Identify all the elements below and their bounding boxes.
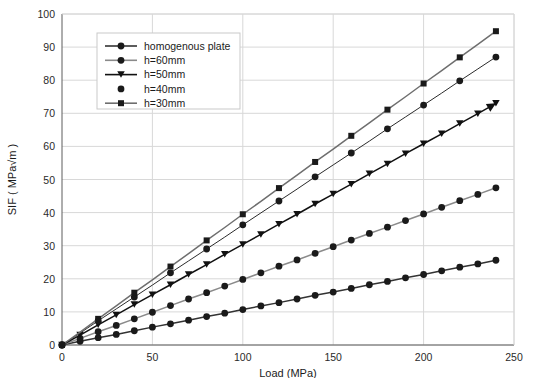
marker-circle [203,289,210,296]
marker-circle [149,324,156,331]
legend-label: h=50mm [144,68,185,80]
marker-circle [420,102,427,109]
marker-circle [131,315,138,322]
marker-square [95,316,101,322]
marker-square [131,290,137,296]
marker-circle [366,230,373,237]
marker-square [421,81,427,87]
marker-circle [221,310,228,317]
legend-label: h=40mm [144,83,185,95]
y-tick-label: 0 [49,339,55,351]
y-tick-label: 40 [43,207,55,219]
y-tick-label: 70 [43,107,55,119]
marker-circle [203,313,210,320]
x-tick-label: 250 [505,351,523,363]
marker-square [348,133,354,139]
marker-square [493,28,499,34]
marker-circle [438,267,445,274]
marker-circle [113,331,120,338]
marker-circle [456,77,463,84]
marker-square [59,342,65,348]
x-axis-title: Load (MPa) [259,367,316,378]
x-tick-label: 150 [324,351,342,363]
x-tick-label: 50 [147,351,159,363]
sif-vs-load-line-chart: 0102030405060708090100050100150200250 Lo… [0,0,538,378]
marker-circle [118,86,125,93]
marker-circle [456,197,463,204]
x-tick-label: 100 [234,351,252,363]
marker-circle [276,263,283,270]
marker-circle [239,221,246,228]
legend: homogenous plateh=60mmh=50mmh=40mmh=30mm [97,33,240,109]
marker-circle [257,303,264,310]
marker-circle [348,237,355,244]
marker-circle [366,281,373,288]
marker-circle [149,309,156,316]
y-tick-label: 10 [43,306,55,318]
marker-circle [167,320,174,327]
marker-circle [221,283,228,290]
marker-circle [348,285,355,292]
marker-circle [239,276,246,283]
marker-circle [312,292,319,299]
marker-circle [167,302,174,309]
marker-circle [95,328,102,335]
marker-square [312,159,318,165]
marker-square [384,107,390,113]
marker-circle [384,278,391,285]
marker-square [457,54,463,60]
marker-circle [456,264,463,271]
marker-square [167,264,173,270]
marker-circle [493,184,500,191]
marker-circle [239,306,246,313]
marker-circle [348,150,355,157]
marker-circle [493,257,500,264]
marker-circle [118,43,125,50]
marker-circle [276,299,283,306]
marker-circle [384,125,391,132]
series-h-50mm [58,100,499,348]
marker-circle [167,269,174,276]
marker-circle [113,322,120,329]
marker-circle [402,274,409,281]
chart-figure: 0102030405060708090100050100150200250 Lo… [0,0,538,378]
marker-circle [257,269,264,276]
legend-label: h=30mm [144,97,185,109]
marker-circle [294,257,301,264]
marker-circle [438,204,445,211]
marker-circle [330,289,337,296]
y-tick-label: 60 [43,140,55,152]
marker-circle [185,296,192,303]
y-tick-label: 90 [43,41,55,53]
marker-circle [131,327,138,334]
y-tick-label: 80 [43,74,55,86]
legend-label: homogenous plate [144,40,231,52]
marker-circle [402,217,409,224]
marker-square [276,185,282,191]
marker-circle [118,57,125,64]
legend-label: h=60mm [144,54,185,66]
marker-circle [493,54,500,61]
marker-circle [312,173,319,180]
marker-square [204,237,210,243]
marker-circle [185,317,192,324]
marker-circle [312,250,319,257]
marker-square [240,211,246,217]
series-h-60mm [59,184,500,348]
marker-circle [420,211,427,218]
y-tick-label: 100 [37,8,55,20]
y-axis-title: SIF ( MPa√m ) [6,144,18,215]
x-tick-label: 200 [415,351,433,363]
marker-circle [474,261,481,268]
y-tick-label: 50 [43,174,55,186]
marker-circle [294,296,301,303]
marker-circle [203,246,210,253]
marker-circle [276,198,283,205]
marker-circle [95,334,102,341]
marker-circle [384,224,391,231]
y-tick-label: 30 [43,240,55,252]
marker-circle [330,243,337,250]
marker-square [118,100,124,106]
x-tick-label: 0 [59,351,65,363]
y-tick-label: 20 [43,273,55,285]
